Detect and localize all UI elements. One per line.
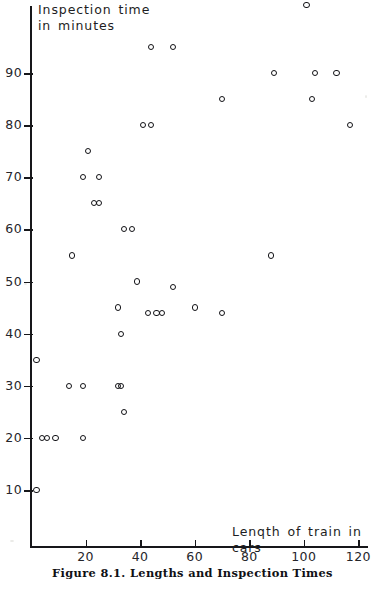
data-point	[148, 44, 154, 50]
y-tick-label-80: 80	[0, 117, 22, 132]
data-point	[121, 409, 127, 415]
x-tick-label-60: 60	[178, 549, 212, 564]
data-point	[52, 435, 58, 441]
data-point	[129, 226, 135, 232]
data-point	[69, 252, 75, 258]
data-point	[80, 435, 86, 441]
y-tick-90	[24, 73, 33, 75]
y-tick-label-40: 40	[0, 326, 22, 341]
x-tick-label-80: 80	[232, 549, 266, 564]
data-point	[96, 200, 102, 206]
data-point	[121, 226, 127, 232]
y-tick-20	[24, 438, 33, 440]
x-tick-120	[358, 540, 360, 548]
y-tick-80	[24, 125, 33, 127]
y-tick-70	[24, 177, 33, 179]
data-point	[140, 122, 146, 128]
x-tick-20	[86, 540, 88, 548]
y-tick-60	[24, 229, 33, 231]
x-tick-label-100: 100	[287, 549, 321, 564]
x-tick-60	[195, 540, 197, 548]
x-tick-label-120: 120	[341, 549, 375, 564]
data-point	[118, 383, 124, 389]
x-tick-100	[304, 540, 306, 548]
paper-speck	[10, 540, 14, 542]
paper-speck	[365, 95, 367, 98]
y-axis-label: Inspection time in minutes	[38, 2, 150, 34]
data-point	[268, 252, 274, 258]
data-point	[96, 174, 102, 180]
data-point	[148, 122, 154, 128]
data-point	[309, 96, 315, 102]
data-point	[347, 122, 353, 128]
scatter-plot: Inspection time in minutes Lenqth of tra…	[0, 0, 385, 560]
data-point	[115, 304, 121, 310]
data-point	[33, 487, 39, 493]
paper-speck	[24, 283, 27, 285]
x-tick-label-40: 40	[123, 549, 157, 564]
y-tick-label-70: 70	[0, 169, 22, 184]
data-point	[85, 148, 91, 154]
data-point	[80, 174, 86, 180]
data-point	[170, 44, 176, 50]
figure-8-1: Inspection time in minutes Lenqth of tra…	[0, 0, 385, 589]
y-tick-label-30: 30	[0, 378, 22, 393]
x-tick-label-20: 20	[69, 549, 103, 564]
data-point	[170, 284, 176, 290]
data-point	[134, 278, 140, 284]
y-axis-line	[30, 6, 32, 548]
data-point	[159, 310, 165, 316]
data-point	[312, 70, 318, 76]
y-tick-label-50: 50	[0, 274, 22, 289]
data-point	[303, 2, 309, 8]
y-tick-label-10: 10	[0, 482, 22, 497]
x-tick-40	[140, 540, 142, 548]
y-tick-10	[24, 490, 33, 492]
y-tick-label-20: 20	[0, 430, 22, 445]
y-tick-30	[24, 386, 33, 388]
data-point	[66, 383, 72, 389]
data-point	[44, 435, 50, 441]
data-point	[145, 310, 151, 316]
data-point	[271, 70, 277, 76]
data-point	[33, 357, 39, 363]
data-point	[333, 70, 339, 76]
data-point	[219, 310, 225, 316]
y-tick-label-60: 60	[0, 221, 22, 236]
y-tick-label-90: 90	[0, 65, 22, 80]
data-point	[80, 383, 86, 389]
y-tick-40	[24, 334, 33, 336]
x-tick-80	[249, 540, 251, 548]
data-point	[219, 96, 225, 102]
data-point	[118, 331, 124, 337]
figure-caption: Figure 8.1. Lengths and Inspection Times	[0, 566, 385, 580]
data-point	[192, 304, 198, 310]
